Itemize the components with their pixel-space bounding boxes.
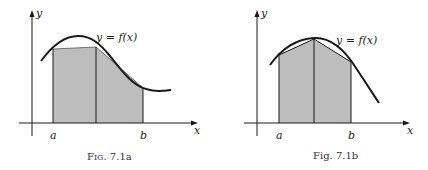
trapezoid-left [279,39,314,123]
y-axis-label: y [35,7,43,20]
figure-caption: FIG. 7.1a [87,151,132,162]
figure-7-1a: y x a b y = f(x) FIG. 7.1a [19,7,201,162]
point-b-label: b [140,129,147,142]
y-axis-label: y [260,7,268,20]
y-axis-arrow-icon [255,10,260,17]
figure-caption: Fig. 7.1b [313,150,358,161]
figure-7-1b: y x a b y = f(x) Fig. 7.1b [244,7,414,161]
point-b-label: b [348,129,355,142]
trapezoid-left [53,47,96,123]
trapezoid-right [314,39,351,123]
y-axis-arrow-icon [30,10,35,17]
x-axis-label: x [194,124,201,137]
curve-label: y = f(x) [335,34,377,47]
point-a-label: a [276,129,283,142]
figure-canvas: y x a b y = f(x) FIG. 7.1a y x a b y = f… [0,0,428,170]
curve-label: y = f(x) [95,31,137,44]
x-axis-label: x [407,124,414,137]
point-a-label: a [50,129,57,142]
